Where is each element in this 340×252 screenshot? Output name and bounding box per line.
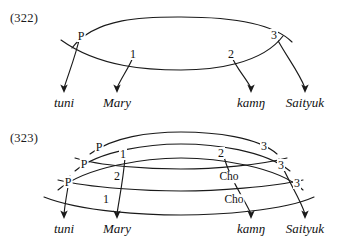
arc-label-3-stratum3: 3: [293, 177, 301, 189]
arc-label-2-stratum2: 2: [113, 170, 121, 182]
arc-label-cho-stratum2: Cho: [218, 171, 239, 183]
word-tuni: tuni: [54, 221, 74, 237]
figure-322: (322) P 1 2 3 tuni Mary kamŋ Saityuk: [0, 0, 340, 126]
arc-label-p-stratum2: P: [80, 158, 89, 170]
word-kamng: kamŋ: [237, 221, 265, 237]
word-tuni: tuni: [54, 95, 74, 111]
arc-label-3-stratum1: 3: [260, 140, 268, 152]
example-number-323: (323): [10, 131, 38, 146]
stem-saityuk: [276, 37, 305, 88]
arc-label-p-stratum3: P: [64, 176, 73, 188]
arc-label-p-stratum1: P: [95, 141, 104, 153]
arc-label-p: P: [77, 30, 86, 42]
arc-label-2: 2: [227, 48, 235, 60]
word-saityuk: Saityuk: [286, 221, 324, 237]
arrowhead-saityuk: [301, 211, 308, 219]
arrowhead-mary: [113, 85, 120, 93]
arc-label-1-stratum1: 1: [119, 148, 127, 160]
arrowhead-tuni: [60, 85, 67, 93]
arc-stratum2-2-cho: [58, 180, 303, 191]
arrowhead-saityuk: [301, 85, 308, 93]
arc-label-2-stratum1: 2: [217, 147, 225, 159]
word-mary: Mary: [103, 95, 131, 111]
arrowhead-kamng: [247, 85, 254, 93]
arc-label-1-stratum3: 1: [102, 193, 110, 205]
arc-stratum3-1-cho: [44, 197, 314, 215]
figure-323: (323) P 1 2 3 P 2 Cho 3 P 1 Cho 3 tuni M…: [0, 126, 340, 252]
arc-label-cho-stratum3: Cho: [223, 194, 244, 206]
arc-label-1: 1: [129, 48, 137, 60]
word-mary: Mary: [103, 221, 131, 237]
example-number-322: (322): [10, 11, 38, 26]
diagram-page: (322) P 1 2 3 tuni Mary kamŋ Saityuk: [0, 0, 340, 252]
arc-label-3: 3: [270, 29, 278, 41]
arc-p-to-3: [72, 17, 292, 48]
arc-1-to-2: [61, 36, 283, 70]
word-kamng: kamŋ: [237, 95, 265, 111]
word-saityuk: Saityuk: [286, 95, 324, 111]
arc-label-3-stratum2: 3: [277, 159, 285, 171]
arrowhead-kamng: [247, 211, 254, 219]
